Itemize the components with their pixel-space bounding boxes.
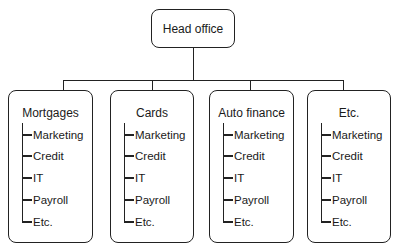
list-item: Etc. bbox=[22, 215, 53, 229]
unit-connector-2 bbox=[152, 80, 153, 90]
list-item: Credit bbox=[124, 149, 166, 163]
list-item: Payroll bbox=[321, 193, 367, 207]
unit-connector-1 bbox=[63, 80, 64, 90]
unit-box-etc: Etc. Marketing Credit IT Payroll Etc. bbox=[307, 90, 391, 243]
list-item: Etc. bbox=[321, 215, 352, 229]
list-item: Payroll bbox=[124, 193, 170, 207]
list-item: Marketing bbox=[223, 128, 285, 142]
unit-box-cards: Cards Marketing Credit IT Payroll Etc. bbox=[110, 90, 194, 243]
list-item: Payroll bbox=[22, 193, 68, 207]
unit-title: Auto finance bbox=[210, 106, 293, 120]
unit-connector-4 bbox=[343, 80, 344, 90]
horizontal-connector bbox=[63, 80, 344, 81]
head-office-label: Head office bbox=[163, 22, 224, 36]
list-item: Marketing bbox=[22, 128, 84, 142]
list-item: IT bbox=[223, 171, 244, 185]
list-item: IT bbox=[22, 171, 43, 185]
list-item: Credit bbox=[22, 149, 64, 163]
list-item: IT bbox=[321, 171, 342, 185]
unit-title: Mortgages bbox=[9, 106, 92, 120]
list-item: Etc. bbox=[223, 215, 254, 229]
list-item: Marketing bbox=[124, 128, 186, 142]
list-item: IT bbox=[124, 171, 145, 185]
unit-title: Etc. bbox=[308, 106, 390, 120]
unit-title: Cards bbox=[111, 106, 193, 120]
unit-box-auto-finance: Auto finance Marketing Credit IT Payroll… bbox=[209, 90, 294, 243]
list-item: Payroll bbox=[223, 193, 269, 207]
list-item: Etc. bbox=[124, 215, 155, 229]
unit-box-mortgages: Mortgages Marketing Credit IT Payroll Et… bbox=[8, 90, 93, 243]
list-item: Credit bbox=[223, 149, 265, 163]
root-connector bbox=[193, 48, 194, 81]
unit-connector-3 bbox=[250, 80, 251, 90]
list-item: Marketing bbox=[321, 128, 383, 142]
head-office-box: Head office bbox=[151, 9, 235, 48]
list-item: Credit bbox=[321, 149, 363, 163]
